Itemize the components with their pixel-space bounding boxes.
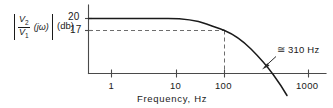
bode-magnitude-plot: V2 V1 (jω) (db) 20 17 1 10 100 1000 Freq… <box>0 0 333 108</box>
abs-bar-right-icon <box>52 14 53 40</box>
cutoff-frequency-annotation: ≅ 310 Hz <box>277 45 319 55</box>
fraction-numerator: V2 <box>18 15 30 27</box>
x-axis-title: Frequency, Hz <box>137 94 207 104</box>
transfer-function-fraction: V2 V1 <box>18 15 30 40</box>
x-tick-label-10: 10 <box>170 81 181 91</box>
x-tick-label-100: 100 <box>215 81 232 91</box>
y-tick-label-17: 17 <box>70 25 82 35</box>
x-tick-label-1000: 1000 <box>296 81 318 91</box>
jomega-argument: (jω) <box>34 22 49 32</box>
fraction-denominator: V1 <box>18 28 30 40</box>
x-tick-label-1: 1 <box>109 81 115 91</box>
y-axis-label: V2 V1 (jω) <box>14 14 53 40</box>
abs-bar-left-icon <box>14 14 15 40</box>
y-tick-label-20: 20 <box>68 12 80 22</box>
